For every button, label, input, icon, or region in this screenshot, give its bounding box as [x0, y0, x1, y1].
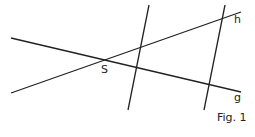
figure-caption: Fig. 1: [217, 112, 247, 123]
line-h: [11, 12, 241, 93]
parallel-line-1: [128, 5, 149, 110]
line-label-h: h: [234, 14, 241, 25]
line-label-g: g: [234, 92, 241, 103]
line-g: [11, 38, 241, 92]
vertex-label-s: S: [101, 64, 108, 75]
figure: S h g Fig. 1: [0, 0, 255, 137]
